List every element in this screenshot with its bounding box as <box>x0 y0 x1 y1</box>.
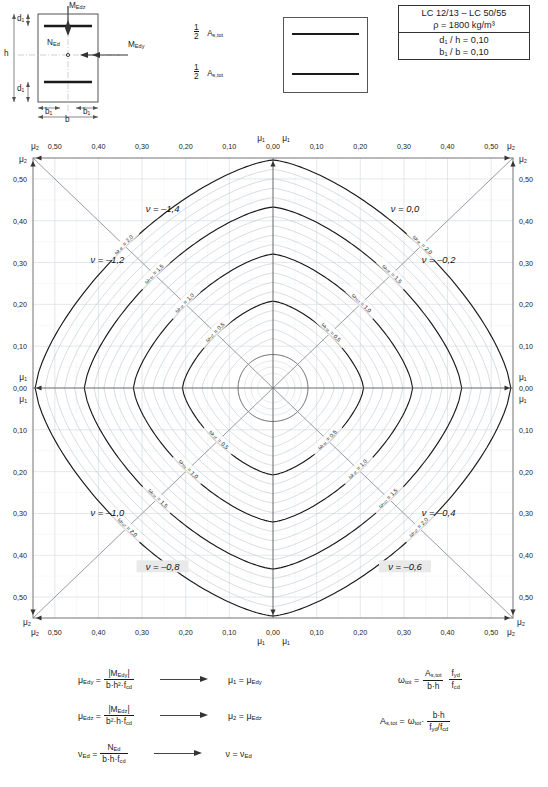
label-h: h <box>4 50 9 58</box>
svg-text:μ₁: μ₁ <box>519 372 527 382</box>
formula-fraction: |MEdy| b·h²·fcd <box>104 668 134 692</box>
nu-sector-label: ν = –0,8 <box>146 561 180 572</box>
svg-text:μ₂: μ₂ <box>19 154 27 164</box>
svg-text:0,30: 0,30 <box>135 142 149 151</box>
svg-text:0,00: 0,00 <box>266 142 280 151</box>
svg-text:μ₁: μ₁ <box>257 636 265 646</box>
svg-text:0,50: 0,50 <box>484 628 498 637</box>
formula-result: μ2 = μEdz <box>228 711 262 721</box>
svg-text:μ₂: μ₂ <box>23 617 31 627</box>
formula-denominator: fcd <box>449 679 461 691</box>
legend-box <box>283 17 368 93</box>
svg-text:0,20: 0,20 <box>519 468 533 477</box>
svg-text:0,10: 0,10 <box>519 342 533 351</box>
half-fraction-top: 1 2 <box>194 23 199 41</box>
arrow-icon <box>154 750 206 757</box>
svg-text:0,30: 0,30 <box>13 259 27 268</box>
formula-numerator: |MEdy| <box>104 668 134 679</box>
formula-mu-edz: μEdz = |MEdz| b²·h·fcd μ2 = μEdz <box>78 704 262 728</box>
svg-text:0,00: 0,00 <box>519 384 533 393</box>
formula-omega-factor: ωtot· <box>408 716 424 726</box>
svg-text:0,50: 0,50 <box>519 175 533 184</box>
formula-lhs: μEdy = <box>78 675 101 685</box>
formula-result: μ1 = μEdy <box>228 675 262 685</box>
label-MEdy: MEdy <box>128 41 144 50</box>
svg-text:0,00: 0,00 <box>13 384 27 393</box>
formula-numerator: |MEdz| <box>104 704 134 715</box>
nu-sector-label: ν = 0,0 <box>391 203 420 214</box>
svg-text:0,20: 0,20 <box>179 628 193 637</box>
svg-text:0,50: 0,50 <box>48 142 62 151</box>
svg-text:0,50: 0,50 <box>519 593 533 602</box>
svg-text:μ₁: μ₁ <box>19 394 27 404</box>
nu-sector-label: ν = –0,4 <box>422 507 456 518</box>
svg-text:0,40: 0,40 <box>519 217 533 226</box>
formula-result: ν = νEd <box>226 749 252 759</box>
formula-denominator: fyd/fcd <box>427 721 450 733</box>
svg-text:0,30: 0,30 <box>135 628 149 637</box>
formula-lhs: ωtot = <box>398 675 419 685</box>
formula-nu-ed: νEd = NEd b·h·fcd ν = νEd <box>78 742 252 766</box>
ratio-b1b-row: b₁ / b = 0,10 <box>399 47 529 59</box>
svg-text:0,40: 0,40 <box>91 628 105 637</box>
as-tot-label-bottom: As,tot <box>207 69 223 78</box>
legend-bar-top <box>292 33 359 35</box>
svg-text:μ₂: μ₂ <box>507 141 515 151</box>
svg-text:0,40: 0,40 <box>13 551 27 560</box>
svg-text:0,10: 0,10 <box>222 142 236 151</box>
formula-denominator: b·h <box>423 680 443 692</box>
svg-text:0,10: 0,10 <box>222 628 236 637</box>
arrow-icon <box>160 676 212 683</box>
svg-text:0,10: 0,10 <box>519 426 533 435</box>
formula-numerator: NEd <box>100 742 127 753</box>
half-fraction-bottom: 1 2 <box>194 63 199 81</box>
cross-section-sketch: MEdz MEdy NEd h d₁ d₁ b₁ b₁ b <box>0 0 160 120</box>
svg-text:μ₂: μ₂ <box>31 627 39 637</box>
formula-denominator: b·h·fcd <box>100 753 127 765</box>
formula-numerator: As,tot <box>423 668 443 679</box>
svg-text:0,20: 0,20 <box>353 628 367 637</box>
svg-text:0,50: 0,50 <box>13 175 27 184</box>
label-b1-left: b₁ <box>45 108 52 116</box>
formula-fraction-strength: fyd fcd <box>449 668 461 692</box>
arrow-icon <box>160 712 212 719</box>
svg-text:0,10: 0,10 <box>13 342 27 351</box>
legend-bar-bottom <box>292 73 359 75</box>
svg-text:0,10: 0,10 <box>310 142 324 151</box>
svg-text:0,20: 0,20 <box>13 468 27 477</box>
svg-text:0,30: 0,30 <box>519 259 533 268</box>
svg-text:0,50: 0,50 <box>48 628 62 637</box>
svg-text:μ₁: μ₁ <box>19 372 27 382</box>
svg-text:μ₁: μ₁ <box>282 133 290 143</box>
svg-text:μ₂: μ₂ <box>31 141 39 151</box>
label-MEdz: MEdz <box>69 2 85 11</box>
svg-text:0,50: 0,50 <box>13 593 27 602</box>
svg-text:μ₁: μ₁ <box>257 133 265 143</box>
svg-text:μ₂: μ₂ <box>519 154 527 164</box>
formula-fraction: NEd b·h·fcd <box>100 742 127 766</box>
formula-numerator: fyd <box>449 668 461 679</box>
svg-text:0,00: 0,00 <box>266 628 280 637</box>
svg-text:0,40: 0,40 <box>91 142 105 151</box>
svg-text:0,10: 0,10 <box>310 628 324 637</box>
formula-lhs: νEd = <box>78 749 97 759</box>
svg-text:μ₂: μ₂ <box>517 617 525 627</box>
legend-label-bottom: 1 2 As,tot <box>194 62 223 81</box>
formula-as-tot: As,tot = ωtot· b·h fyd/fcd <box>380 710 450 733</box>
formula-numerator: b·h <box>427 710 450 721</box>
svg-text:0,10: 0,10 <box>13 426 27 435</box>
formula-mu-edy: μEdy = |MEdy| b·h²·fcd μ1 = μEdy <box>78 668 262 692</box>
svg-text:0,30: 0,30 <box>519 509 533 518</box>
formula-omega-tot: ωtot = As,tot b·h fyd fcd <box>398 668 462 692</box>
svg-text:0,20: 0,20 <box>353 142 367 151</box>
nu-sector-label: ν = –0,6 <box>388 561 422 572</box>
formula-fraction: b·h fyd/fcd <box>427 710 450 733</box>
svg-text:0,40: 0,40 <box>519 551 533 560</box>
svg-text:0,30: 0,30 <box>397 142 411 151</box>
svg-text:0,20: 0,20 <box>13 300 27 309</box>
density-row: ρ = 1800 kg/m³ <box>399 20 529 32</box>
label-NEd: NEd <box>47 39 60 48</box>
concrete-class-row: LC 12/13 – LC 50/55 <box>399 6 529 20</box>
svg-text:μ₁: μ₁ <box>282 636 290 646</box>
interaction-diagram: 0,00μ₁μ₁0,100,100,200,200,300,300,400,40… <box>0 120 548 665</box>
